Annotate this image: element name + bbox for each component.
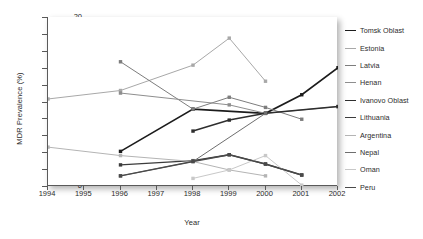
data-point-marker: [228, 118, 231, 121]
legend-item-nepal[interactable]: Nepal: [345, 144, 423, 161]
x-axis-title: Year: [47, 218, 337, 227]
series-nepal: [119, 112, 267, 178]
data-point-marker: [228, 153, 231, 156]
series-line: [121, 113, 266, 176]
x-axis-tick-label: 1997: [141, 190, 171, 198]
x-axis-tick-mark: [83, 186, 84, 190]
x-axis-tick-label: 1994: [32, 190, 62, 198]
chart-figure: MDR Prevalence (%) 02468101214161820 199…: [0, 0, 423, 239]
data-point-marker: [336, 105, 338, 108]
legend-item-henan[interactable]: Henan: [345, 74, 423, 91]
x-axis-tick-mark: [47, 186, 48, 190]
legend-line-swatch: [345, 30, 356, 31]
data-point-marker: [264, 154, 267, 157]
legend-line-swatch: [345, 187, 356, 188]
data-point-marker: [119, 154, 122, 157]
data-point-marker: [264, 174, 267, 177]
data-point-marker: [48, 97, 50, 100]
data-point-marker: [264, 80, 267, 83]
data-point-marker: [228, 103, 231, 106]
legend-item-label: Tomsk Oblast: [360, 26, 404, 35]
legend-item-label: Latvia: [360, 61, 379, 70]
series-argentina: [48, 145, 267, 177]
x-axis-tick-mark: [228, 186, 229, 190]
legend-item-label: Ivanovo Oblast: [360, 96, 409, 105]
series-estonia: [48, 36, 267, 100]
data-point-marker: [191, 160, 194, 163]
legend-item-oman[interactable]: Oman: [345, 161, 423, 178]
legend-line-swatch: [345, 117, 356, 118]
legend-item-label: Nepal: [360, 148, 379, 157]
legend-line-swatch: [345, 152, 356, 153]
data-point-marker: [191, 63, 194, 66]
x-axis-tick-mark: [337, 186, 338, 190]
x-axis-tick-mark: [265, 186, 266, 190]
legend-item-label: Argentina: [360, 131, 391, 140]
data-point-marker: [300, 173, 303, 176]
data-point-marker: [228, 96, 231, 99]
legend-item-label: Henan: [360, 78, 381, 87]
legend-item-label: Estonia: [360, 44, 384, 53]
legend-line-swatch: [345, 65, 356, 66]
series-canvas: [48, 17, 338, 186]
plot-area: [47, 17, 337, 186]
data-point-marker: [228, 168, 231, 171]
x-axis-tick-label: 1996: [105, 190, 135, 198]
chart-legend: Tomsk OblastEstoniaLatviaHenanIvanovo Ob…: [345, 22, 423, 196]
data-point-marker: [191, 177, 194, 180]
data-point-marker: [119, 174, 122, 177]
data-point-marker: [228, 36, 231, 39]
legend-item-ivanovo-oblast[interactable]: Ivanovo Oblast: [345, 92, 423, 109]
x-axis-tick-label: 2001: [286, 190, 316, 198]
legend-line-swatch: [345, 48, 356, 49]
data-point-marker: [119, 91, 122, 94]
data-point-marker: [119, 60, 122, 63]
legend-line-swatch: [345, 135, 356, 136]
legend-item-peru[interactable]: Peru: [345, 179, 423, 196]
data-point-marker: [264, 162, 267, 165]
legend-line-swatch: [345, 100, 356, 101]
data-point-marker: [191, 107, 194, 110]
legend-item-estonia[interactable]: Estonia: [345, 39, 423, 56]
data-point-marker: [264, 112, 267, 115]
data-point-marker: [336, 66, 338, 69]
legend-item-lithuania[interactable]: Lithuania: [345, 109, 423, 126]
data-point-marker: [191, 129, 194, 132]
legend-item-latvia[interactable]: Latvia: [345, 57, 423, 74]
legend-item-label: Lithuania: [360, 113, 390, 122]
x-axis-tick-mark: [120, 186, 121, 190]
series-line: [48, 38, 266, 99]
data-point-marker: [264, 106, 267, 109]
legend-item-tomsk-oblast[interactable]: Tomsk Oblast: [345, 22, 423, 39]
legend-item-label: Oman: [360, 165, 380, 174]
x-axis-tick-label: 1999: [213, 190, 243, 198]
x-axis-tick-mark: [301, 186, 302, 190]
x-axis-tick-label: 1998: [177, 190, 207, 198]
legend-item-label: Peru: [360, 183, 375, 192]
data-point-marker: [300, 118, 303, 121]
legend-line-swatch: [345, 169, 356, 170]
data-point-marker: [300, 93, 303, 96]
data-point-marker: [48, 145, 50, 148]
x-axis-tick-mark: [156, 186, 157, 190]
x-axis-tick-label: 2000: [250, 190, 280, 198]
series-lithuania: [119, 153, 304, 177]
data-point-marker: [119, 163, 122, 166]
legend-item-argentina[interactable]: Argentina: [345, 126, 423, 143]
y-axis-title: MDR Prevalence (%): [15, 66, 24, 152]
data-point-marker: [119, 150, 122, 153]
x-axis-tick-label: 1995: [68, 190, 98, 198]
x-axis-tick-mark: [192, 186, 193, 190]
series-line: [48, 147, 266, 176]
legend-line-swatch: [345, 82, 356, 83]
